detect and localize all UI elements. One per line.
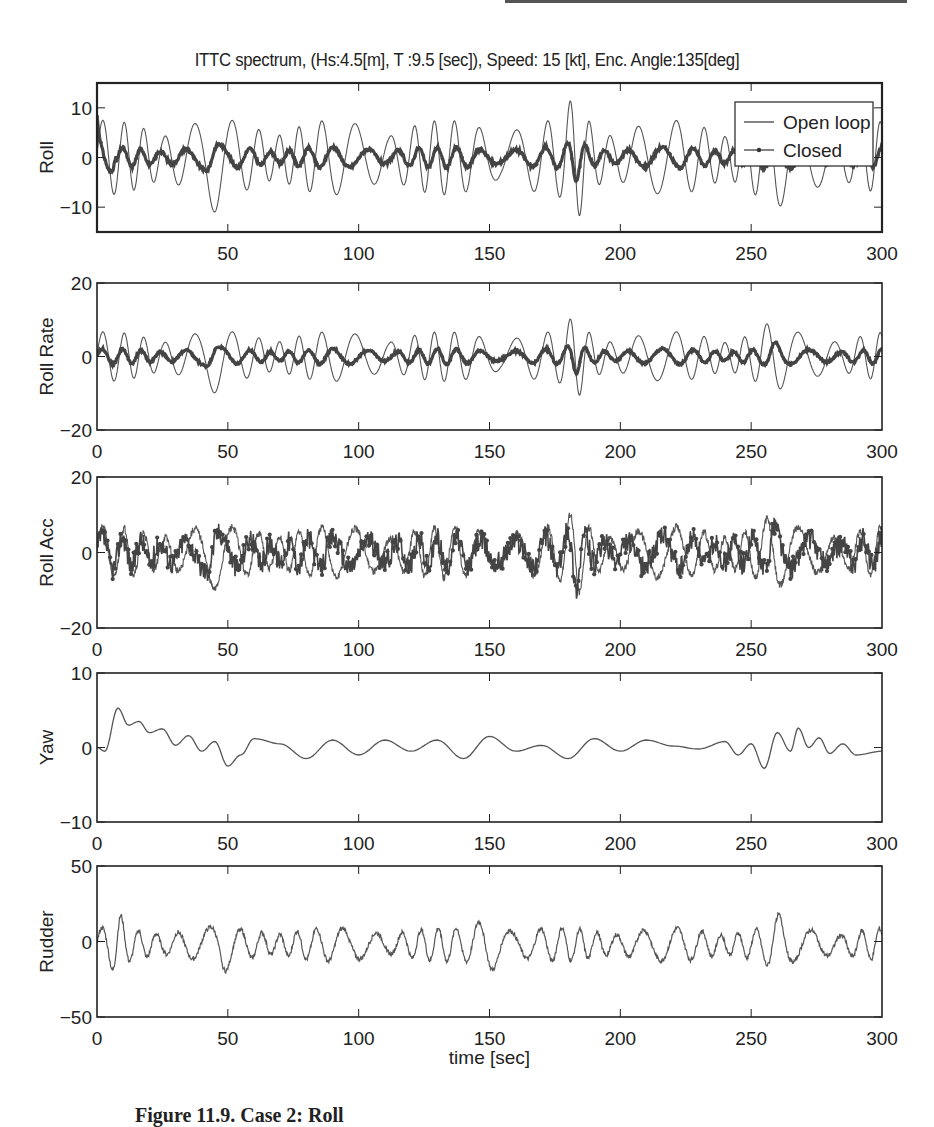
y-tick-label: −10: [60, 812, 92, 833]
x-axis-label: time [sec]: [449, 1047, 530, 1068]
y-tick-label: 0: [81, 932, 92, 953]
y-tick-label: −50: [60, 1007, 92, 1028]
subplot-roll-rate: 200−20050100150200250300Roll Rate: [36, 273, 898, 462]
x-tick-label: 50: [217, 1028, 238, 1049]
x-tick-label: 250: [735, 243, 767, 264]
x-tick-label: 50: [217, 833, 238, 854]
y-axis-label: Roll Acc: [36, 518, 57, 587]
y-tick-label: 10: [71, 663, 92, 684]
x-tick-label: 150: [474, 639, 506, 660]
y-axis-label: Yaw: [36, 729, 57, 765]
y-tick-label: 0: [81, 738, 92, 759]
subplot-yaw: 100−10050100150200250300Yaw: [36, 663, 898, 854]
x-tick-label: 50: [217, 243, 238, 264]
rudder-line: [97, 913, 882, 973]
x-tick-label: 200: [604, 441, 636, 462]
axes-box: [97, 673, 882, 822]
x-tick-label: 150: [474, 243, 506, 264]
y-tick-label: 20: [71, 273, 92, 294]
y-tick-label: 0: [81, 347, 92, 368]
x-tick-label: 250: [735, 1028, 767, 1049]
x-tick-label: 300: [866, 441, 898, 462]
x-tick-label: 0: [92, 441, 103, 462]
y-tick-label: 10: [71, 98, 92, 119]
x-tick-label: 0: [92, 833, 103, 854]
x-tick-label: 250: [735, 441, 767, 462]
x-tick-label: 150: [474, 441, 506, 462]
subplot-roll-acc: 200−20050100150200250300Roll Acc: [36, 467, 898, 660]
x-tick-label: 0: [92, 639, 103, 660]
y-axis-label: Roll Rate: [36, 317, 57, 395]
subplot-rudder: 500−50050100150200250300Rudder: [36, 856, 898, 1049]
x-tick-label: 200: [604, 1028, 636, 1049]
y-tick-label: 20: [71, 467, 92, 488]
yaw-line: [97, 708, 882, 768]
y-tick-label: −20: [60, 420, 92, 441]
x-tick-label: 250: [735, 833, 767, 854]
x-tick-label: 250: [735, 639, 767, 660]
axes-box: [97, 866, 882, 1017]
y-tick-label: −20: [60, 618, 92, 639]
x-tick-label: 50: [217, 441, 238, 462]
y-axis-label: Rudder: [36, 910, 57, 973]
x-tick-label: 300: [866, 1028, 898, 1049]
x-tick-label: 100: [343, 1028, 375, 1049]
legend: Open loopClosed: [735, 102, 873, 166]
y-tick-label: 50: [71, 856, 92, 877]
x-tick-label: 200: [604, 243, 636, 264]
x-tick-label: 300: [866, 639, 898, 660]
y-axis-label: Roll: [36, 141, 57, 174]
x-tick-label: 100: [343, 639, 375, 660]
x-tick-label: 0: [92, 1028, 103, 1049]
legend-item-label: Open loop: [783, 112, 871, 133]
figure-caption: Figure 11.9. Case 2: Roll: [135, 1104, 344, 1127]
x-tick-label: 100: [343, 243, 375, 264]
legend-item-label: Closed: [783, 140, 842, 161]
y-tick-label: −10: [60, 197, 92, 218]
x-tick-label: 300: [866, 243, 898, 264]
x-tick-label: 200: [604, 833, 636, 854]
x-tick-label: 300: [866, 833, 898, 854]
x-tick-label: 100: [343, 441, 375, 462]
x-tick-label: 150: [474, 1028, 506, 1049]
y-tick-label: 0: [81, 148, 92, 169]
x-tick-label: 50: [217, 639, 238, 660]
y-tick-label: 0: [81, 543, 92, 564]
x-tick-label: 200: [604, 639, 636, 660]
x-tick-label: 100: [343, 833, 375, 854]
x-tick-label: 150: [474, 833, 506, 854]
